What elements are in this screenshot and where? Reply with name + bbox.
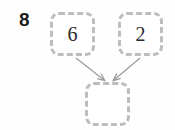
diagram-canvas: 8 6 2: [0, 0, 175, 130]
answer-box-bottom[interactable]: [85, 82, 130, 126]
edge-top-right-to-bottom: [114, 58, 140, 80]
number-box-top-right[interactable]: 2: [118, 12, 163, 56]
question-number-label: 8: [19, 10, 30, 30]
edge-top-left-to-bottom: [76, 58, 104, 80]
number-box-top-left-value: 6: [68, 24, 78, 44]
number-box-top-left[interactable]: 6: [50, 12, 95, 56]
number-box-top-right-value: 2: [136, 24, 146, 44]
